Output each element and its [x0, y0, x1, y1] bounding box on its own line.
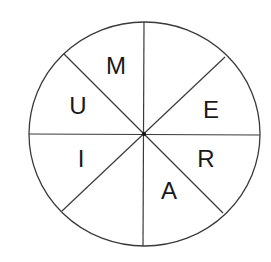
letter-wheel-diagram: ERAIUM — [0, 0, 271, 262]
sector-letter-m: M — [106, 52, 126, 79]
sector-letter-e: E — [203, 96, 219, 123]
center-dot — [142, 132, 146, 136]
sector-letter-i: I — [78, 145, 85, 172]
sector-letter-u: U — [69, 92, 86, 119]
sector-letter-r: R — [197, 145, 214, 172]
sector-letter-a: A — [161, 177, 177, 204]
